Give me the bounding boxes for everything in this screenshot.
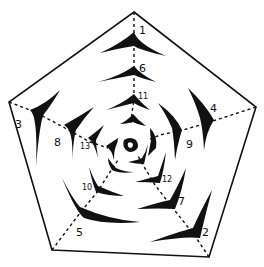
claw-inner-top (120, 114, 146, 126)
claw-inner-left (106, 138, 118, 160)
claw-5 (62, 178, 140, 223)
node-label-7: 7 (178, 195, 185, 208)
claw-inner-bottom-left (108, 158, 134, 173)
claw-inner-bottom-right (128, 144, 148, 164)
claw-inner-right (148, 128, 156, 156)
center-swirl (123, 138, 138, 152)
node-labels: 1 2 3 4 5 6 7 8 9 10 11 12 13 (15, 24, 217, 239)
node-label-10: 10 (82, 183, 92, 192)
node-label-12: 12 (162, 175, 172, 184)
claw-9 (158, 103, 182, 160)
node-label-11: 11 (138, 92, 148, 101)
claw-1 (100, 32, 166, 56)
dashed-spokes (9, 12, 256, 257)
node-label-4: 4 (210, 102, 217, 115)
node-label-1: 1 (139, 24, 146, 37)
node-label-8: 8 (54, 136, 61, 149)
claw-6 (98, 66, 156, 82)
node-label-3: 3 (15, 118, 22, 131)
claw-3 (30, 90, 60, 166)
node-label-6: 6 (139, 62, 146, 75)
node-label-9: 9 (186, 138, 193, 151)
node-label-5: 5 (76, 226, 83, 239)
pentagon-spiral-diagram: 1 2 3 4 5 6 7 8 9 10 11 12 13 (0, 0, 264, 267)
claw-8 (64, 107, 94, 160)
node-label-2: 2 (202, 226, 209, 239)
pentagon-outline (9, 12, 256, 257)
node-label-13: 13 (80, 142, 90, 151)
spoke-bottom-left (52, 160, 118, 250)
